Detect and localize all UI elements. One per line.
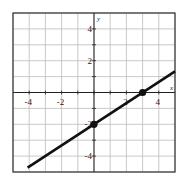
y-tick-label: -4 (85, 151, 93, 161)
data-point (139, 89, 146, 96)
x-tick-label: -2 (57, 97, 65, 107)
coordinate-plane: -4-22442-2-4yx (0, 0, 182, 192)
x-tick-label: -4 (24, 97, 32, 107)
y-axis-label: y (96, 15, 101, 23)
x-axis-label: x (169, 84, 174, 92)
y-tick-label: 2 (88, 56, 93, 66)
data-point (90, 121, 97, 128)
y-tick-label: 4 (88, 24, 93, 34)
plotted-line (28, 71, 175, 167)
x-tick-label: 4 (156, 97, 161, 107)
